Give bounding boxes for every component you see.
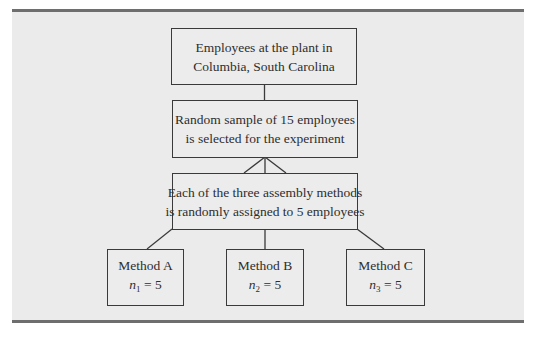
method-b-label: Method B [238,256,292,275]
method-a-label: Method A [118,256,172,275]
population-line-2: Columbia, South Carolina [193,57,334,76]
assignment-line-1: Each of the three assembly methods [168,183,363,202]
assignment-line-2: is randomly assigned to 5 employees [165,202,364,221]
sample-line-2: is selected for the experiment [186,129,345,148]
population-box: Employees at the plant in Columbia, Sout… [171,28,357,85]
method-c-label: Method C [358,256,412,275]
assignment-box: Each of the three assembly methods is ra… [172,173,358,230]
sample-box: Random sample of 15 employees is selecte… [172,100,358,158]
population-line-1: Employees at the plant in [195,38,332,57]
method-c-sample-size: n3 = 5 [369,275,401,299]
method-b-box: Method B n2 = 5 [226,249,304,306]
sample-line-1: Random sample of 15 employees [175,110,355,129]
method-a-sample-size: n1 = 5 [129,275,161,299]
method-c-box: Method C n3 = 5 [346,249,425,306]
method-a-box: Method A n1 = 5 [107,249,184,306]
method-b-sample-size: n2 = 5 [249,275,281,299]
